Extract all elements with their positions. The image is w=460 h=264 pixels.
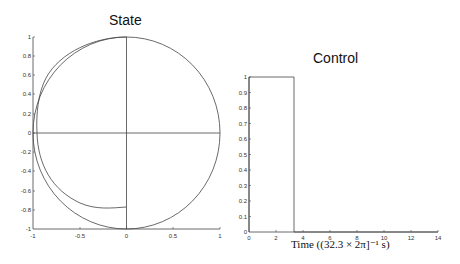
svg-text:-0.4: -0.4 [21,168,32,174]
svg-text:0.9: 0.9 [239,90,248,96]
svg-text:-0.5: -0.5 [75,233,86,239]
svg-text:8: 8 [355,235,359,241]
svg-text:0: 0 [125,233,129,239]
svg-text:12: 12 [408,235,415,241]
svg-text:0.4: 0.4 [239,167,248,173]
svg-text:0: 0 [247,235,251,241]
svg-text:0.6: 0.6 [23,72,32,78]
svg-text:0.3: 0.3 [239,183,248,189]
control-tick-labels: 1 0.9 0.8 0.7 0.6 0.5 0.4 0.3 0.2 0.1 0 … [239,74,442,241]
svg-text:0.2: 0.2 [23,111,32,117]
svg-text:2: 2 [274,235,278,241]
state-ytick: 1 [28,34,32,40]
svg-text:0.8: 0.8 [239,105,248,111]
control-chart [249,77,438,232]
svg-text:1: 1 [218,233,222,239]
svg-text:-0.2: -0.2 [21,149,32,155]
svg-text:-0.6: -0.6 [21,188,32,194]
svg-text:0.1: 0.1 [239,214,248,220]
svg-text:-0.8: -0.8 [21,207,32,213]
state-trajectory [37,37,127,208]
svg-text:0.5: 0.5 [239,152,248,158]
control-ticks [249,77,438,232]
svg-text:1: 1 [244,74,248,80]
svg-text:6: 6 [328,235,332,241]
svg-text:-1: -1 [26,226,32,232]
svg-text:-1: -1 [30,233,36,239]
svg-text:0.6: 0.6 [239,136,248,142]
svg-text:4: 4 [301,235,305,241]
svg-text:0.4: 0.4 [23,91,32,97]
svg-text:14: 14 [435,235,442,241]
state-chart [33,37,220,229]
svg-text:10: 10 [381,235,388,241]
svg-text:0.5: 0.5 [169,233,178,239]
svg-text:0: 0 [28,130,32,136]
svg-text:0.7: 0.7 [239,121,248,127]
control-signal-line [249,77,438,232]
charts-canvas: 1 0.8 0.6 0.4 0.2 0 -0.2 -0.4 -0.6 -0.8 … [0,0,460,264]
svg-text:0.8: 0.8 [23,53,32,59]
svg-text:0.2: 0.2 [239,198,248,204]
